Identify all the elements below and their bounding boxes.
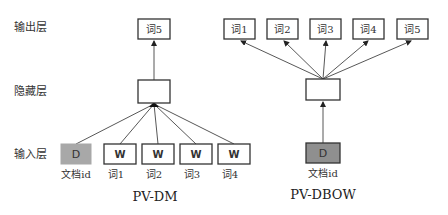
- output-word-5-text: 词5: [404, 24, 420, 35]
- doc-id-label: 文档id: [61, 168, 91, 180]
- word-box-2-text: W: [152, 149, 163, 160]
- doc-id-box-text: D: [319, 147, 327, 160]
- output-word-text: 词5: [146, 24, 162, 35]
- edge-w3-to-hidden: [154, 104, 196, 144]
- word-label-4: 词4: [222, 169, 238, 180]
- edge-doc-to-hidden: [76, 104, 154, 144]
- edge-w2-to-hidden: [154, 104, 158, 144]
- doc-id-box-text: D: [72, 148, 80, 161]
- edge-w1-to-hidden: [120, 104, 154, 144]
- edge-hidden-to-word5: [323, 41, 411, 79]
- edge-hidden-to-word3: [323, 41, 326, 79]
- diagram-canvas: 输出层 隐藏层 输入层 词5 D 文档id W 词1 W 词2 W 词3 W: [0, 0, 448, 215]
- edge-hidden-to-word1: [241, 41, 323, 79]
- word-box-1-text: W: [114, 149, 125, 160]
- pv-dbow-model: 词1 词2 词3 词4 词5 D 文档id PV-DBOW: [224, 19, 428, 202]
- output-word-2-text: 词2: [274, 24, 290, 35]
- word-box-4-text: W: [228, 149, 239, 160]
- layer-label-hidden: 隐藏层: [14, 85, 47, 98]
- edge-w4-to-hidden: [154, 104, 234, 144]
- doc-id-label: 文档id: [308, 167, 338, 179]
- edge-hidden-to-word2: [284, 41, 323, 79]
- edge-hidden-to-word4: [323, 41, 368, 79]
- hidden-layer-box: [306, 79, 340, 100]
- output-word-1-text: 词1: [231, 24, 247, 35]
- output-word-4-text: 词4: [360, 24, 376, 35]
- hidden-layer-box: [138, 80, 170, 103]
- word-label-1: 词1: [108, 169, 124, 180]
- word-label-2: 词2: [146, 169, 162, 180]
- word-label-3: 词3: [184, 169, 200, 180]
- pv-dm-model: 词5 D 文档id W 词1 W 词2 W 词3 W 词4 PV-DM: [61, 19, 250, 204]
- layer-label-output: 输出层: [14, 20, 47, 34]
- pv-dm-title: PV-DM: [132, 189, 177, 204]
- layer-label-input: 输入层: [14, 147, 47, 161]
- output-word-3-text: 词3: [317, 24, 333, 35]
- pv-dbow-title: PV-DBOW: [290, 187, 356, 202]
- word-box-3-text: W: [190, 149, 201, 160]
